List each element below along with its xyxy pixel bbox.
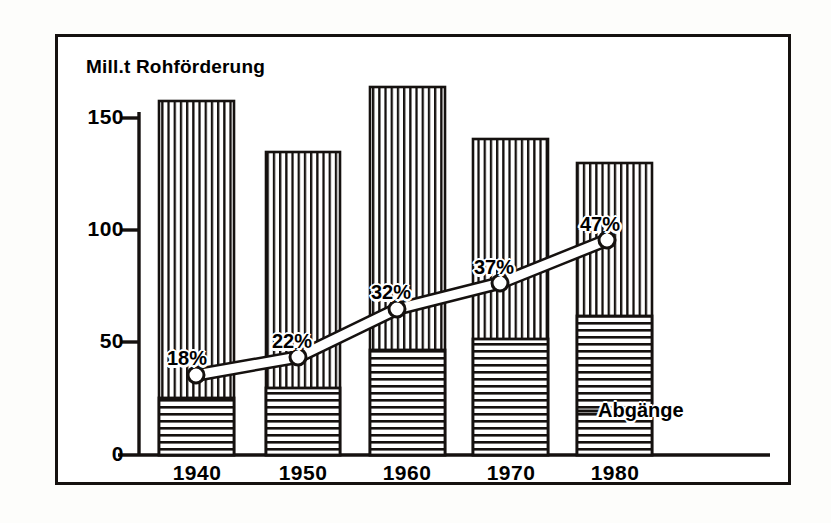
bar-group-1950 <box>266 152 340 455</box>
chart-axis-title: Mill.t Rohförderung <box>86 56 265 78</box>
chart-root: Mill.t Rohförderung 150 100 50 0 1940 19… <box>0 0 831 523</box>
bar-group-1960 <box>370 87 445 455</box>
x-tick-label-1960: 1960 <box>352 461 462 485</box>
y-axis <box>122 112 140 456</box>
data-label-1970-percent: 37% <box>474 256 514 279</box>
x-tick-label-1950: 1950 <box>248 461 358 485</box>
y-tick-label-50: 50 <box>76 329 124 353</box>
y-tick-label-150: 150 <box>76 105 124 129</box>
bar-group-1970 <box>473 139 548 455</box>
x-tick-label-1940: 1940 <box>142 461 252 485</box>
chart-plot-area <box>0 0 831 523</box>
y-tick-label-0: 0 <box>76 442 124 466</box>
x-tick-label-1980: 1980 <box>560 461 670 485</box>
series-label-abgaenge: Abgänge <box>598 399 684 422</box>
data-label-1940-percent: 18% <box>167 347 207 370</box>
data-label-1980-percent: 47% <box>580 213 620 236</box>
data-label-1950-percent: 22% <box>272 330 312 353</box>
x-tick-label-1970: 1970 <box>456 461 566 485</box>
y-tick-label-100: 100 <box>76 217 124 241</box>
data-label-1960-percent: 32% <box>371 281 411 304</box>
bar-group-1940 <box>159 101 234 455</box>
